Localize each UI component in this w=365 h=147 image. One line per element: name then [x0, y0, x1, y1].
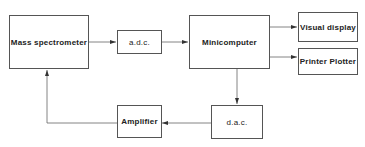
node-mass-spectrometer: Mass spectrometer	[9, 15, 89, 69]
node-label: Minicomputer	[202, 38, 257, 47]
node-label: Printer Plotter	[300, 57, 356, 66]
node-amplifier: Amplifier	[117, 105, 162, 138]
node-dac: d.a.c.	[211, 105, 263, 139]
node-label: Visual display	[300, 23, 356, 32]
node-label: Amplifier	[121, 117, 157, 126]
node-label: Mass spectrometer	[11, 38, 87, 47]
node-minicomputer: Minicomputer	[189, 15, 270, 69]
node-adc: a.d.c.	[117, 30, 162, 54]
node-label: d.a.c.	[227, 118, 248, 127]
node-visual-display: Visual display	[298, 12, 358, 42]
node-printer-plotter: Printer Plotter	[298, 48, 358, 75]
arrow-amplifier-to-massspec	[47, 70, 117, 123]
block-diagram: Mass spectrometer a.d.c. Minicomputer Vi…	[0, 0, 365, 147]
node-label: a.d.c.	[129, 38, 150, 47]
